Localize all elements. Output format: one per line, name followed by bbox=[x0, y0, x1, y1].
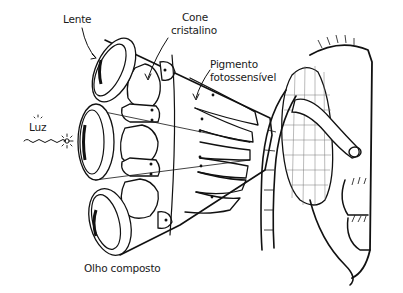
insect-head bbox=[261, 35, 372, 285]
label-cone-line1: Cone bbox=[170, 11, 220, 23]
lens-middle bbox=[78, 104, 114, 180]
light-wave bbox=[24, 140, 66, 143]
compound-eye-diagram: Lente Cone cristalino Pigmento fotossens… bbox=[0, 0, 403, 293]
label-cone-line2: cristalino bbox=[162, 24, 226, 36]
label-pigmento-line1: Pigmento bbox=[210, 58, 258, 70]
label-pigmento-line2: fotossensível bbox=[210, 71, 276, 83]
diagram-illustration bbox=[0, 0, 403, 293]
label-lente: Lente bbox=[63, 13, 91, 25]
label-luz: Luz bbox=[29, 121, 46, 133]
label-olho-composto: Olho composto bbox=[84, 262, 161, 274]
